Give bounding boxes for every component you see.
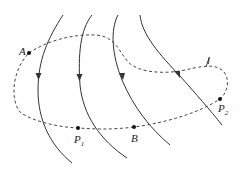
field-lines [38, 15, 222, 163]
label-P2: P2 [217, 102, 229, 117]
arrow-down-icon [77, 74, 83, 81]
label-A: A [18, 45, 26, 57]
arrow-down-icon [174, 71, 180, 78]
label-l: l [207, 54, 210, 66]
point-P2 [218, 97, 222, 101]
point-A [27, 51, 31, 55]
diagram: A P1 B P2 l [0, 0, 242, 172]
point-B [132, 125, 136, 129]
label-B: B [131, 132, 138, 144]
field-arrows [36, 71, 181, 81]
field-line-3 [113, 15, 170, 145]
point-P1 [76, 126, 80, 130]
closed-path-l [14, 35, 228, 129]
label-P1: P1 [73, 133, 84, 148]
field-line-4 [140, 15, 222, 125]
arrow-down-icon [36, 73, 42, 80]
